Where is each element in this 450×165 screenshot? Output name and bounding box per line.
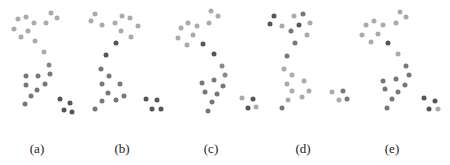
point-marker (341, 89, 346, 94)
point-marker (113, 21, 118, 26)
point-marker (427, 107, 432, 112)
point-marker (251, 97, 256, 102)
point-marker (89, 19, 94, 24)
point-marker (246, 106, 251, 111)
point-marker (215, 92, 220, 97)
point-marker (48, 72, 53, 77)
point-marker (372, 19, 377, 24)
point-marker (300, 95, 305, 100)
point-marker (386, 41, 391, 46)
panel-label-e: (e) (385, 141, 399, 157)
point-marker (422, 96, 427, 101)
point-marker (404, 15, 409, 20)
point-marker (179, 26, 184, 31)
point-marker (289, 29, 294, 34)
point-marker (292, 14, 297, 19)
point-marker (216, 14, 221, 19)
figure-canvas (0, 0, 450, 165)
point-marker (176, 36, 181, 41)
point-marker (221, 84, 226, 89)
point-marker (159, 107, 164, 112)
point-marker (330, 90, 335, 95)
point-marker (100, 82, 105, 87)
point-marker (47, 63, 52, 68)
point-marker (62, 108, 67, 113)
point-marker (26, 29, 31, 34)
panel-label-a: (a) (30, 141, 44, 157)
point-marker (100, 99, 105, 104)
point-marker (24, 83, 29, 88)
point-marker (301, 12, 306, 17)
point-marker (376, 32, 381, 37)
point-marker (360, 33, 365, 38)
point-marker (42, 50, 47, 55)
point-marker (404, 64, 409, 69)
point-marker (55, 16, 60, 21)
point-marker (107, 74, 112, 79)
point-marker (337, 98, 342, 103)
point-marker (223, 73, 228, 78)
point-marker (206, 109, 211, 114)
point-marker (308, 21, 313, 26)
point-marker (369, 40, 374, 45)
point-marker (99, 67, 104, 72)
point-marker (114, 41, 119, 46)
point-marker (293, 41, 298, 46)
point-marker (403, 83, 408, 88)
point-marker (364, 23, 369, 28)
point-marker (29, 94, 34, 99)
point-marker (280, 106, 285, 111)
point-marker (129, 35, 134, 40)
point-marker (396, 90, 401, 95)
point-marker (210, 100, 215, 105)
point-marker (118, 82, 123, 87)
point-marker (280, 24, 285, 29)
point-marker (195, 24, 200, 29)
point-marker (70, 110, 75, 115)
point-marker (23, 102, 28, 107)
point-marker (12, 27, 17, 32)
point-marker (345, 97, 350, 102)
point-marker (191, 33, 196, 38)
point-marker (385, 106, 390, 111)
point-marker (106, 91, 111, 96)
point-marker (212, 52, 217, 57)
point-marker (200, 81, 205, 86)
point-marker (285, 82, 290, 87)
point-marker (307, 89, 312, 94)
point-marker (122, 94, 127, 99)
panel-label-c: (c) (204, 141, 218, 157)
point-marker (203, 90, 208, 95)
point-marker (16, 17, 21, 22)
point-marker (290, 89, 295, 94)
point-marker (254, 105, 259, 110)
point-marker (201, 42, 206, 47)
point-marker (49, 11, 54, 16)
point-marker (390, 97, 395, 102)
panel-label-b: (b) (114, 141, 129, 157)
point-marker (119, 29, 124, 34)
point-marker (302, 79, 307, 84)
point-marker (44, 21, 49, 26)
point-marker (144, 97, 149, 102)
point-marker (68, 101, 73, 106)
point-marker (155, 98, 160, 103)
point-marker (305, 33, 310, 38)
point-marker (128, 16, 133, 21)
point-marker (93, 12, 98, 17)
point-marker (407, 73, 412, 78)
point-marker (272, 14, 277, 19)
point-marker (150, 107, 155, 112)
point-marker (58, 97, 63, 102)
point-marker (33, 39, 38, 44)
point-marker (398, 10, 403, 15)
point-marker (436, 107, 441, 112)
panel-label-d: (d) (295, 141, 310, 157)
point-marker (383, 87, 388, 92)
point-marker (186, 21, 191, 26)
point-marker (19, 35, 24, 40)
point-marker (381, 23, 386, 28)
point-marker (185, 43, 190, 48)
point-marker (285, 54, 290, 59)
point-marker (220, 64, 225, 69)
